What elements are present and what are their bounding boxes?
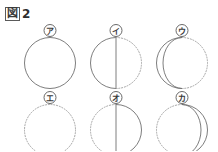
moon-arc-right-solid bbox=[116, 105, 142, 152]
moon-label-u: ウ bbox=[176, 24, 189, 37]
moon-arc-right-dotted bbox=[182, 38, 208, 89]
moon-cell-u: ウ bbox=[149, 24, 215, 92]
figure-number: 2 bbox=[22, 8, 30, 20]
moon-arc-left-dotted bbox=[91, 105, 117, 152]
figure-marker-char: 図 bbox=[5, 7, 20, 21]
moon-label-i: イ bbox=[110, 24, 123, 37]
moon-arc-left-solid bbox=[157, 38, 183, 89]
moon-shape-waning-crescent bbox=[149, 30, 215, 92]
moon-shape-new-moon bbox=[17, 97, 83, 151]
moon-arc-left-solid bbox=[91, 38, 117, 89]
moon-outline-solid bbox=[25, 38, 76, 89]
moon-arc-left-dotted bbox=[157, 105, 183, 152]
moon-cell-ka: カ bbox=[149, 91, 215, 151]
moon-shape-last-quarter bbox=[83, 30, 149, 92]
figure-container: 図 2 ア イ ウ エ オ bbox=[0, 0, 218, 151]
moon-shape-waxing-crescent bbox=[149, 97, 215, 151]
moon-shape-first-quarter bbox=[83, 97, 149, 151]
moon-cell-o: オ bbox=[83, 91, 149, 151]
moon-label-ka: カ bbox=[176, 91, 189, 104]
moon-label-a: ア bbox=[44, 24, 57, 37]
moon-outline-dotted bbox=[25, 105, 76, 152]
moon-cell-a: ア bbox=[17, 24, 83, 92]
moon-terminator-curve bbox=[182, 105, 201, 152]
moon-terminator-curve bbox=[163, 38, 182, 89]
moon-arc-right-dotted bbox=[116, 38, 142, 89]
moon-label-e: エ bbox=[44, 91, 57, 104]
moon-cell-e: エ bbox=[17, 91, 83, 151]
moon-label-o: オ bbox=[110, 91, 123, 104]
figure-caption: 図 2 bbox=[5, 7, 30, 21]
moon-shape-full-moon bbox=[17, 30, 83, 92]
moon-cell-i: イ bbox=[83, 24, 149, 92]
